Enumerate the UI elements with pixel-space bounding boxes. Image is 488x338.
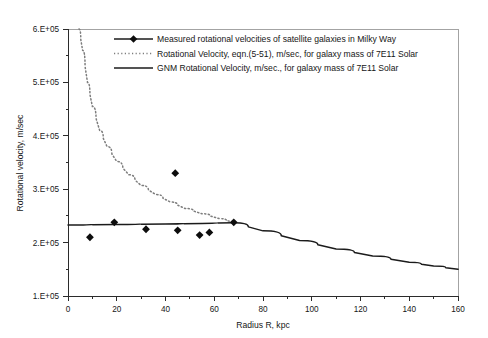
x-axis-ticks — [68, 296, 458, 301]
x-axis-title: Radius R, kpc — [236, 320, 290, 330]
y-tick-label-1: 1.E+05 — [33, 292, 60, 301]
chart-legend: Measured rotational velocities of satell… — [114, 34, 418, 73]
data-point-marker — [230, 218, 238, 226]
legend-label-equation: Rotational Velocity, eqn.(5-51), m/sec, … — [157, 49, 418, 59]
legend-label-gnm: GNM Rotational Velocity, m/sec., for gal… — [157, 63, 398, 73]
x-tick-label-20: 20 — [112, 305, 122, 314]
y-axis-tick-labels: 1.E+05 2.E+05 3.E+05 4.E+05 5.E+05 6.E+0… — [33, 25, 60, 301]
x-tick-label-140: 140 — [402, 305, 416, 314]
data-point-marker — [174, 226, 182, 234]
data-point-marker — [142, 225, 150, 233]
y-tick-label-2: 2.E+05 — [33, 239, 60, 248]
series-line-gnm — [68, 223, 458, 269]
legend-marker-diamond-measured — [130, 35, 138, 43]
y-axis-ticks — [63, 29, 68, 296]
data-point-marker — [86, 233, 94, 241]
legend-label-measured: Measured rotational velocities of satell… — [157, 34, 397, 44]
chart-canvas: 1.E+05 2.E+05 3.E+05 4.E+05 5.E+05 6.E+0… — [0, 0, 488, 338]
data-point-marker — [196, 231, 204, 239]
x-tick-label-60: 60 — [210, 305, 220, 314]
x-axis-tick-labels: 0 20 40 60 80 100 120 140 160 — [66, 305, 466, 314]
x-tick-label-40: 40 — [161, 305, 171, 314]
x-tick-label-120: 120 — [354, 305, 368, 314]
y-tick-label-3: 3.E+05 — [33, 185, 60, 194]
data-point-marker — [205, 229, 213, 237]
x-tick-label-0: 0 — [66, 305, 71, 314]
y-axis-title: Rotational velocity, m/sec — [15, 114, 25, 211]
y-tick-label-6: 6.E+05 — [33, 25, 60, 34]
y-tick-label-5: 5.E+05 — [33, 78, 60, 87]
rotational-velocity-chart: 1.E+05 2.E+05 3.E+05 4.E+05 5.E+05 6.E+0… — [0, 0, 488, 338]
x-tick-label-100: 100 — [305, 305, 319, 314]
x-tick-label-160: 160 — [451, 305, 465, 314]
data-point-marker — [171, 169, 179, 177]
series-markers-measured — [86, 169, 238, 241]
y-tick-label-4: 4.E+05 — [33, 132, 60, 141]
x-tick-label-80: 80 — [258, 305, 268, 314]
